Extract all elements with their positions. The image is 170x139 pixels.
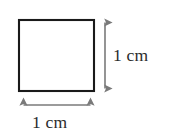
height-dimension-label: 1 cm	[113, 47, 148, 65]
square-shape	[19, 20, 94, 91]
geometry-figure: 1 cm 1 cm	[0, 0, 170, 139]
figure-canvas	[0, 0, 170, 139]
width-dimension-label: 1 cm	[32, 114, 67, 132]
